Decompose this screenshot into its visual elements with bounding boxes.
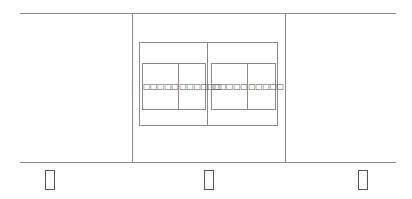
cell-label: □□□□□	[212, 83, 247, 91]
left-inner-group: □□□□□ □□□□□□	[142, 63, 206, 110]
cell-left-1: □□□□□	[143, 64, 178, 109]
column-divider-left	[132, 13, 133, 163]
cell-label: □□□□□	[143, 83, 178, 91]
bottom-rule	[20, 162, 396, 163]
column-label-right	[358, 170, 368, 190]
column-label-center	[204, 170, 214, 190]
cell-right-1: □□□□□	[212, 64, 247, 109]
column-label-left	[45, 170, 55, 190]
cell-label: □□□□□	[248, 83, 283, 91]
column-divider-right	[285, 13, 286, 163]
cell-right-2: □□□□□	[247, 64, 283, 109]
right-inner-group: □□□□□ □□□□□	[211, 63, 276, 110]
top-rule	[20, 13, 396, 14]
